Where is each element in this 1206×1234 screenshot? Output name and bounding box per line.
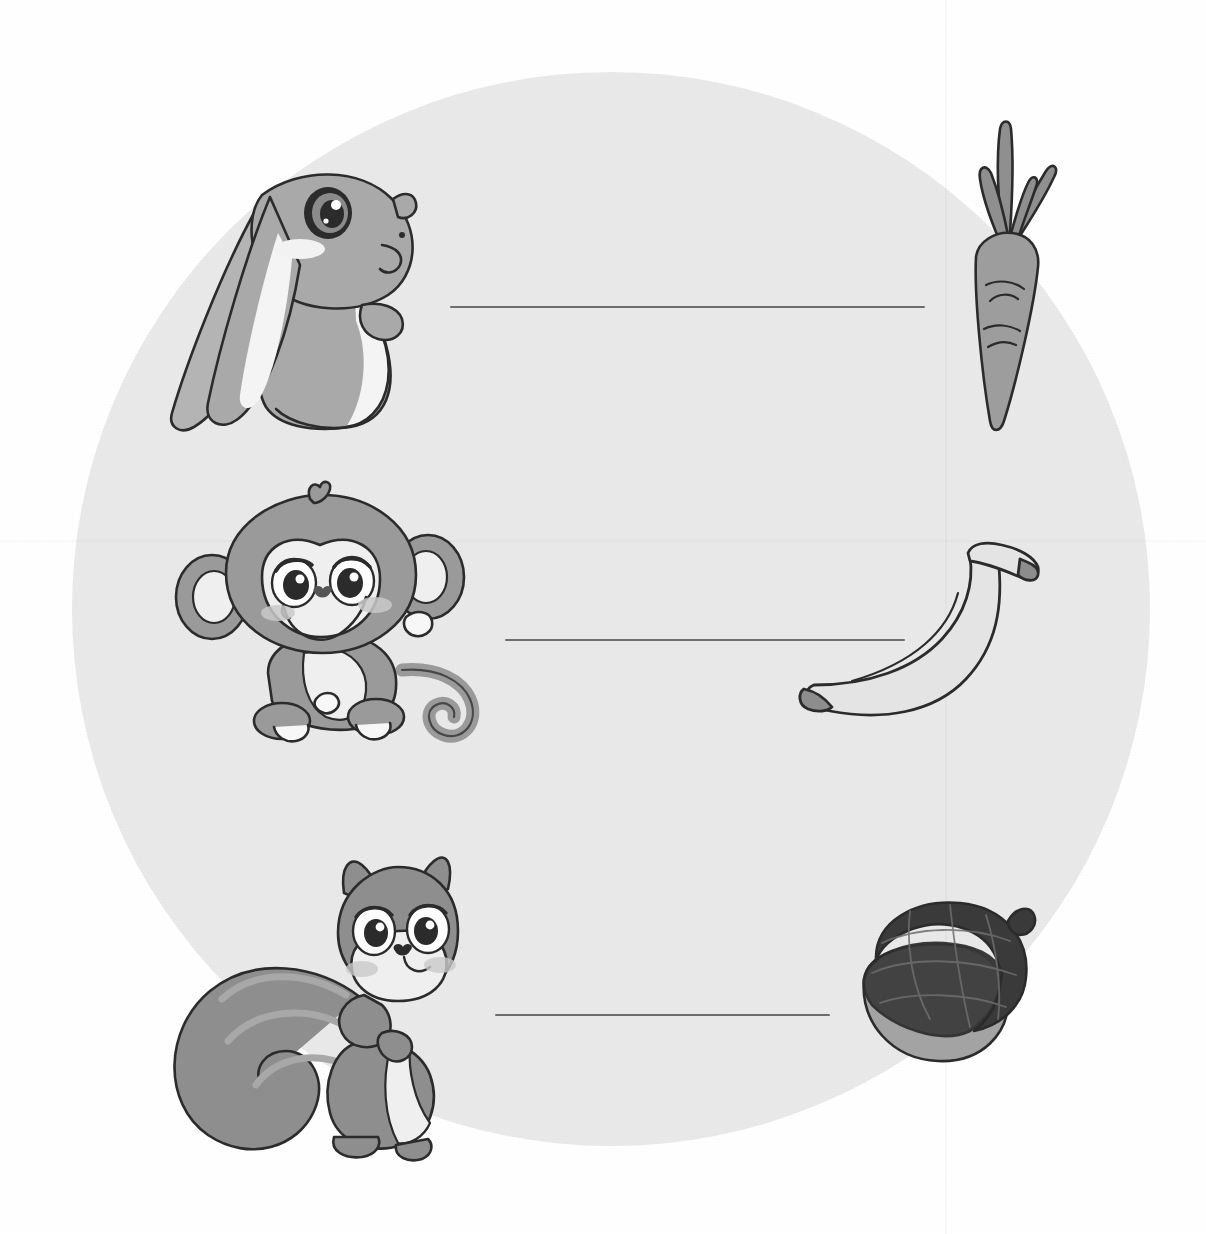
monkey-blush-right	[358, 597, 392, 613]
acorn-stem	[1008, 909, 1035, 935]
rabbit-nose	[399, 232, 405, 238]
acorn-illustration	[850, 895, 1040, 1075]
rabbit-ear-nub	[393, 194, 416, 218]
squirrel-eye-left	[353, 907, 395, 955]
match-line-row-2[interactable]	[505, 639, 905, 641]
banana-body	[807, 557, 1000, 715]
monkey-illustration	[170, 485, 500, 765]
match-line-row-1[interactable]	[450, 306, 925, 308]
rabbit-eye	[304, 187, 352, 239]
squirrel-foot	[333, 1137, 379, 1157]
rabbit-illustration	[150, 155, 460, 455]
carrot-root	[976, 233, 1039, 430]
rabbit-blush	[275, 239, 325, 259]
match-line-row-3[interactable]	[495, 1014, 830, 1016]
squirrel-illustration	[158, 845, 498, 1165]
monkey-blush-left	[261, 605, 295, 621]
banana-illustration	[790, 535, 1060, 725]
carrot-illustration	[940, 115, 1070, 445]
monkey-tail	[402, 670, 473, 737]
squirrel-blush-right	[424, 957, 456, 973]
squirrel-blush-left	[346, 961, 378, 977]
worksheet-page	[0, 0, 1206, 1234]
squirrel-eye-right	[407, 905, 449, 953]
monkey-eye-right	[330, 557, 374, 605]
monkey-eye-left	[272, 559, 316, 607]
monkey-waving-hand	[404, 612, 432, 636]
